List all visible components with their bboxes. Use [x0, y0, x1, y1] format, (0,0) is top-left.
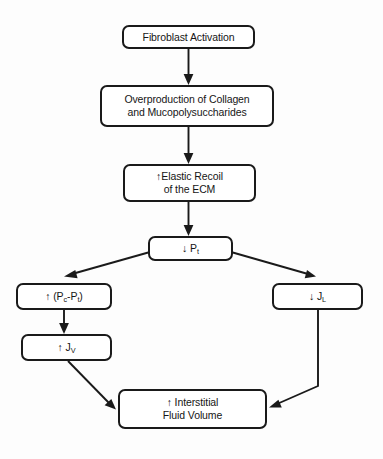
node-overproduction-collagen[interactable]: Overproduction of Collagen and Mucopolys…	[100, 85, 274, 127]
node-label: Overproduction of Collagen and Mucopolys…	[124, 93, 249, 119]
edge-jv-to-fluid-volume	[68, 361, 116, 410]
edge-pt-to-pc-minus-pt	[64, 252, 150, 278]
node-decreased-pt[interactable]: ↓ Pt	[148, 236, 233, 261]
node-label: ↓ JL	[309, 290, 326, 304]
node-label: ↑Elastic Recoil of the ECM	[156, 170, 223, 196]
node-fibroblast-activation[interactable]: Fibroblast Activation	[122, 25, 255, 49]
edge-activation-to-overproduction	[184, 49, 194, 85]
edge-jl-to-fluid-volume	[269, 310, 318, 408]
node-label: Fibroblast Activation	[143, 31, 235, 44]
edge-recoil-to-pt	[184, 202, 194, 236]
node-interstitial-fluid-volume[interactable]: ↑ Interstitial Fluid Volume	[118, 389, 267, 429]
edge-pc-minus-pt-to-jv	[59, 310, 69, 334]
node-elastic-recoil[interactable]: ↑Elastic Recoil of the ECM	[123, 164, 256, 202]
node-label: ↑ (Pc-Pt)	[45, 290, 83, 304]
node-label: ↑ JV	[58, 341, 76, 355]
node-label: ↑ Interstitial Fluid Volume	[163, 396, 223, 422]
node-increased-pc-minus-pt[interactable]: ↑ (Pc-Pt)	[16, 283, 112, 310]
edge-overproduction-to-recoil	[184, 127, 194, 164]
node-label: ↓ Pt	[182, 242, 199, 256]
flowchart-canvas: Fibroblast Activation Overproduction of …	[0, 0, 383, 459]
edge-pt-to-jl	[231, 252, 316, 278]
node-decreased-jl[interactable]: ↓ JL	[272, 283, 363, 310]
node-increased-jv[interactable]: ↑ JV	[21, 334, 112, 361]
